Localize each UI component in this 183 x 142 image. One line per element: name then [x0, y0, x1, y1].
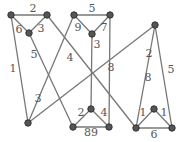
node-N: [169, 125, 175, 131]
edge-weight-label: 8: [145, 71, 152, 84]
node-C: [26, 30, 32, 36]
node-D: [71, 12, 77, 18]
edge-weight-label: 3: [35, 92, 42, 105]
edge-weight-label: 5: [168, 63, 175, 76]
node-A: [8, 12, 14, 18]
edge-weight-label: 6: [151, 128, 158, 141]
node-K: [106, 124, 112, 130]
node-L: [133, 125, 139, 131]
edge-weight-label: 3: [38, 22, 45, 35]
node-B: [44, 12, 50, 18]
edge-weight-label: 5: [89, 2, 96, 15]
edge-weight-label: 1: [10, 62, 17, 75]
node-H: [25, 120, 31, 126]
edge-F-J: [91, 34, 92, 109]
edge-weight-label: 89: [84, 126, 98, 139]
edge-weight-label: 1: [161, 106, 168, 119]
edge-weight-label: 5: [31, 48, 38, 61]
edge-weight-label: 1: [140, 106, 147, 119]
node-E: [107, 12, 113, 18]
edge-weight-label: 3: [94, 38, 101, 51]
edge-weight-label: 4: [101, 106, 108, 119]
graph-diagram: 2631534597388252489116: [0, 0, 183, 142]
node-M: [151, 106, 157, 112]
edge-weight-label: 4: [67, 51, 74, 64]
node-I: [70, 124, 76, 130]
node-F: [89, 31, 95, 37]
node-J: [88, 106, 94, 112]
node-G: [152, 22, 158, 28]
edge-weight-label: 7: [101, 21, 108, 34]
edge-weight-label: 2: [30, 2, 37, 15]
edge-weight-label: 9: [75, 21, 82, 34]
edge-weight-label: 6: [16, 23, 23, 36]
edge-weight-label: 2: [78, 106, 85, 119]
edge-weight-label: 2: [146, 47, 153, 60]
edge-weight-label: 8: [108, 61, 115, 74]
edge-D-H: [28, 15, 74, 123]
